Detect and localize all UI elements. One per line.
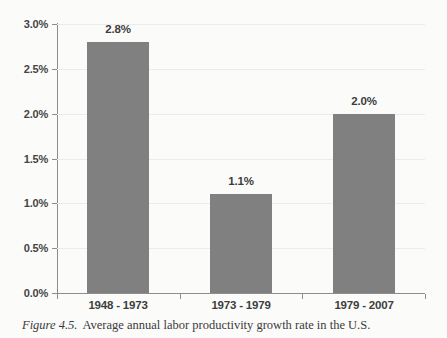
x-tick-mark: [302, 294, 303, 299]
figure-page: 3.0%2.5%2.0%1.5%1.0%0.5%0.0% 2.8%1.1%2.0…: [0, 0, 447, 338]
y-tick-label: 1.0%: [4, 197, 48, 209]
bar[interactable]: [210, 194, 272, 293]
y-tick-label: 0.5%: [4, 242, 48, 254]
x-tick-mark: [425, 294, 426, 299]
bar-value-label: 2.8%: [73, 23, 163, 35]
x-tick-mark: [180, 294, 181, 299]
caption-text: Average annual labor productivity growth…: [82, 318, 370, 332]
y-tick-label: 2.5%: [4, 63, 48, 75]
x-tick-label: 1948 - 1973: [58, 299, 178, 311]
figure-caption: Figure 4.5.Average annual labor producti…: [22, 318, 370, 333]
caption-number: Figure 4.5.: [22, 318, 77, 332]
y-tick-label: 1.5%: [4, 153, 48, 165]
bar-value-label: 2.0%: [319, 95, 409, 107]
bar-value-label: 1.1%: [196, 175, 286, 187]
x-tick-mark: [57, 294, 58, 299]
gridline: [57, 293, 425, 294]
x-tick-label: 1979 - 2007: [304, 299, 424, 311]
y-tick-label: 0.0%: [4, 287, 48, 299]
bar[interactable]: [333, 114, 395, 293]
plot-area: [57, 24, 425, 293]
y-tick-label: 2.0%: [4, 108, 48, 120]
bar-chart: 3.0%2.5%2.0%1.5%1.0%0.5%0.0% 2.8%1.1%2.0…: [0, 0, 447, 310]
x-tick-label: 1973 - 1979: [181, 299, 301, 311]
y-tick-label: 3.0%: [4, 18, 48, 30]
bar[interactable]: [87, 42, 149, 293]
